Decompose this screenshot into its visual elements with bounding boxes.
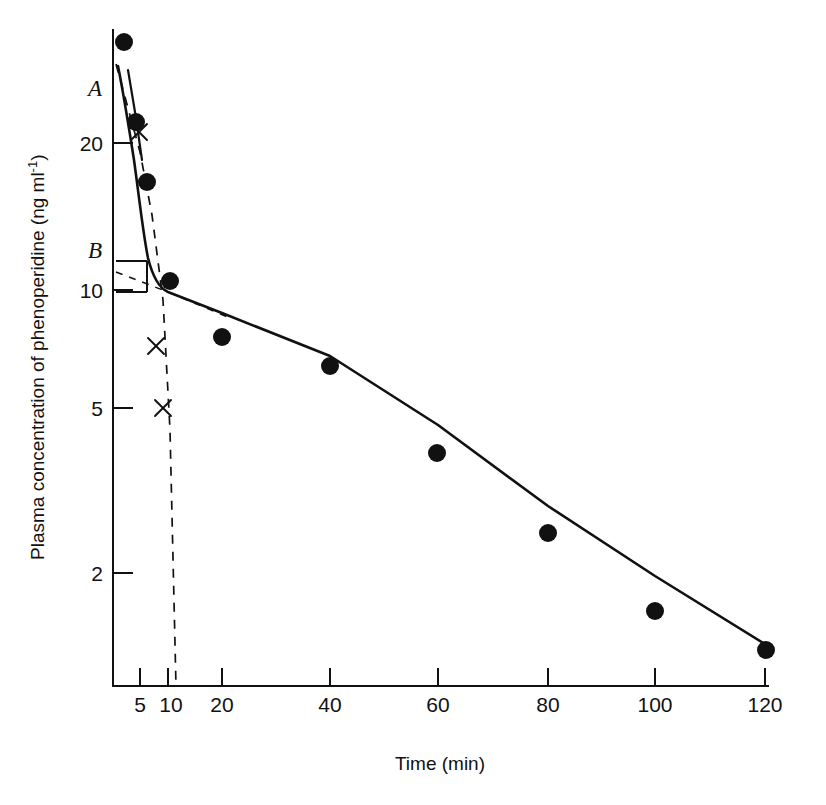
data-point bbox=[428, 444, 446, 462]
data-point bbox=[161, 272, 179, 290]
phase-label-b: B bbox=[88, 238, 102, 263]
data-point bbox=[539, 524, 557, 542]
data-point bbox=[115, 33, 133, 51]
axis-group bbox=[113, 30, 768, 686]
y-axis-title-main: Plasma concentration of phenoperidine (n… bbox=[27, 172, 48, 560]
x-tick-group bbox=[140, 668, 765, 686]
phase-label-a: A bbox=[86, 76, 103, 101]
y-tick-labels: 20 10 5 2 bbox=[80, 132, 103, 585]
y-tick-label-10: 10 bbox=[80, 279, 103, 302]
x-tick-label-120: 120 bbox=[747, 693, 782, 716]
biexponential-fit-curve bbox=[118, 66, 768, 646]
cross-marker bbox=[148, 338, 164, 354]
data-point bbox=[213, 328, 231, 346]
pharmacokinetic-chart: 20 10 5 2 5 10 20 40 60 80 100 120 bbox=[0, 0, 826, 805]
x-tick-labels: 5 10 20 40 60 80 100 120 bbox=[134, 693, 782, 716]
data-point bbox=[646, 602, 664, 620]
x-tick-label-80: 80 bbox=[536, 693, 559, 716]
data-point bbox=[138, 173, 156, 191]
y-axis-title: Plasma concentration of phenoperidine (n… bbox=[25, 154, 48, 560]
data-point bbox=[757, 641, 775, 659]
y-axis-title-tail: ) bbox=[27, 154, 48, 160]
x-tick-label-5: 5 bbox=[134, 693, 146, 716]
x-tick-label-20: 20 bbox=[210, 693, 233, 716]
data-point-group bbox=[115, 33, 775, 659]
y-tick-group bbox=[113, 143, 133, 573]
data-point bbox=[127, 113, 145, 131]
figure-container: 20 10 5 2 5 10 20 40 60 80 100 120 bbox=[0, 0, 826, 805]
distribution-phase-dashed-line bbox=[116, 64, 176, 686]
cross-marker bbox=[155, 400, 171, 416]
data-point bbox=[321, 357, 339, 375]
y-tick-label-2: 2 bbox=[91, 562, 103, 585]
y-axis-title-superscript: -1 bbox=[25, 161, 40, 173]
x-tick-label-60: 60 bbox=[426, 693, 449, 716]
x-tick-label-10: 10 bbox=[159, 693, 182, 716]
construction-bracket bbox=[116, 261, 147, 292]
x-axis-title: Time (min) bbox=[395, 753, 485, 774]
y-tick-label-20: 20 bbox=[80, 132, 103, 155]
x-tick-label-40: 40 bbox=[318, 693, 341, 716]
y-tick-label-5: 5 bbox=[91, 397, 103, 420]
x-tick-label-100: 100 bbox=[637, 693, 672, 716]
